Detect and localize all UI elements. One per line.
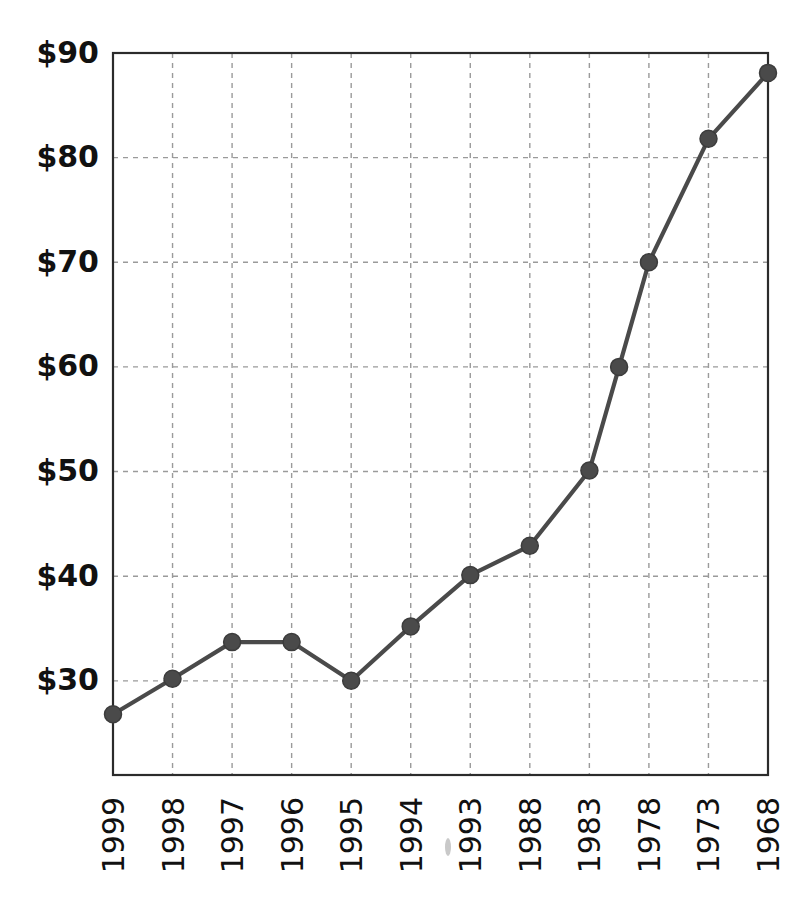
y-axis-tick-label: $30 <box>36 662 99 697</box>
data-point-marker <box>760 64 777 81</box>
y-axis-tick-label: $60 <box>36 348 99 383</box>
data-point-marker <box>581 462 598 479</box>
series-markers <box>105 64 777 722</box>
data-point-marker <box>640 254 657 271</box>
x-axis-tick-label: 1994 <box>394 797 429 873</box>
x-axis-tick-label: 1983 <box>572 797 607 873</box>
data-point-marker <box>283 634 300 651</box>
chart-container: $30$40$50$60$70$80$90 199919981997199619… <box>0 0 812 920</box>
data-point-marker <box>105 706 122 723</box>
y-axis-tick-label: $70 <box>36 244 99 279</box>
line-chart-plot: $30$40$50$60$70$80$90 199919981997199619… <box>0 0 812 920</box>
y-axis-tick-label: $40 <box>36 558 99 593</box>
series-line <box>113 73 768 714</box>
x-axis-tick-label: 1998 <box>156 797 191 873</box>
x-axis-tick-labels: 1999199819971996199519941993198819831978… <box>96 797 786 873</box>
y-axis-tick-labels: $30$40$50$60$70$80$90 <box>36 35 99 698</box>
data-point-marker <box>164 670 181 687</box>
x-axis-tick-label: 1999 <box>96 797 131 873</box>
data-point-marker <box>462 567 479 584</box>
data-point-marker <box>611 358 628 375</box>
x-axis-tick-label: 1988 <box>513 797 548 873</box>
y-axis-tick-label: $90 <box>36 35 99 70</box>
data-point-marker <box>343 672 360 689</box>
x-axis-tick-label: 1968 <box>751 797 786 873</box>
x-axis-tick-label: 1995 <box>334 797 369 873</box>
x-gridlines <box>173 53 709 775</box>
y-axis-tick-label: $50 <box>36 453 99 488</box>
data-point-marker <box>521 537 538 554</box>
data-point-marker <box>224 634 241 651</box>
x-axis-tick-label: 1978 <box>632 797 667 873</box>
y-axis-tick-label: $80 <box>36 139 99 174</box>
x-axis-tick-label: 1997 <box>215 797 250 873</box>
data-point-marker <box>402 618 419 635</box>
x-axis-tick-label: 1973 <box>691 797 726 873</box>
data-point-marker <box>700 130 717 147</box>
x-axis-tick-label: 1993 <box>453 797 488 873</box>
scan-speck <box>445 838 451 856</box>
x-axis-tick-label: 1996 <box>275 797 310 873</box>
plot-frame <box>113 53 768 775</box>
